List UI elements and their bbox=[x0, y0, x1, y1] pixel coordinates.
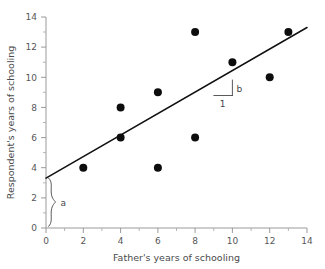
data-point bbox=[191, 134, 199, 142]
data-point bbox=[191, 28, 199, 36]
data-point bbox=[117, 103, 125, 111]
data-point bbox=[154, 88, 162, 96]
x-tick-label: 2 bbox=[80, 236, 86, 246]
y-tick-label: 10 bbox=[26, 73, 38, 83]
data-point bbox=[79, 164, 87, 172]
x-tick-label: 4 bbox=[118, 236, 124, 246]
x-tick-label: 10 bbox=[227, 236, 239, 246]
data-point bbox=[284, 28, 292, 36]
x-axis-title: Father's years of schooling bbox=[113, 252, 240, 263]
annotation-label-b: b bbox=[237, 84, 243, 94]
plot-background bbox=[0, 0, 325, 269]
y-tick-label: 12 bbox=[26, 42, 37, 52]
x-tick-label: 12 bbox=[264, 236, 275, 246]
y-axis-title: Respondent's years of schooling bbox=[5, 46, 16, 200]
y-tick-label: 8 bbox=[31, 103, 37, 113]
y-tick-label: 14 bbox=[26, 12, 38, 22]
data-point bbox=[228, 58, 236, 66]
x-tick-label: 0 bbox=[43, 236, 49, 246]
data-point bbox=[117, 134, 125, 142]
x-tick-label: 8 bbox=[192, 236, 198, 246]
y-tick-label: 4 bbox=[31, 163, 37, 173]
y-tick-label: 0 bbox=[31, 223, 37, 233]
annotation-label-one: 1 bbox=[220, 99, 226, 109]
y-tick-label: 6 bbox=[31, 133, 37, 143]
annotation-label-a: a bbox=[61, 198, 67, 208]
scatter-plot-figure: 0 2 4 6 8 10 12 14 Respondent's years of… bbox=[0, 0, 325, 269]
data-point bbox=[154, 164, 162, 172]
x-tick-label: 14 bbox=[301, 236, 313, 246]
x-tick-label: 6 bbox=[155, 236, 161, 246]
plot-canvas: 0 2 4 6 8 10 12 14 Respondent's years of… bbox=[0, 0, 325, 269]
data-point bbox=[266, 73, 274, 81]
y-tick-label: 2 bbox=[31, 193, 37, 203]
